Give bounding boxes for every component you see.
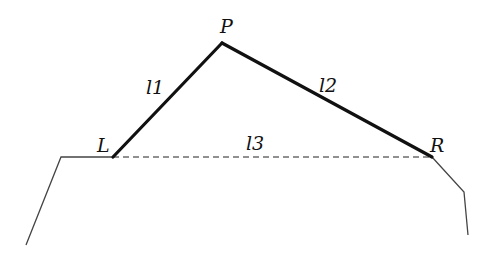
point-label-l: L <box>96 134 110 156</box>
ground-profile-right <box>432 157 468 235</box>
segment-l1 <box>113 43 222 157</box>
point-label-p: P <box>219 15 234 37</box>
segment-label-l1: l1 <box>146 76 164 98</box>
segment-label-l2: l2 <box>319 74 337 96</box>
segment-label-l3: l3 <box>246 132 264 154</box>
point-label-r: R <box>429 134 444 156</box>
triangle-diagram: P L R l1 l2 l3 <box>0 0 492 261</box>
ground-profile-left <box>26 157 113 245</box>
